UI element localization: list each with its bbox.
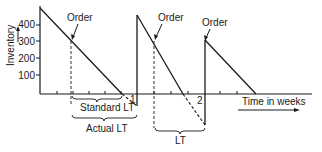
- depletion-line-3: [205, 40, 256, 94]
- order-arrowhead-icon: [71, 34, 75, 40]
- order-arrow-1: [73, 24, 78, 37]
- lt-brace: [155, 128, 205, 134]
- actual-lt-label: Actual LT: [86, 123, 128, 134]
- y-tick-label-400: 400: [18, 19, 35, 30]
- order-label-1: Order: [67, 12, 93, 23]
- y-tick-label-300: 300: [18, 36, 35, 47]
- standard-lt-label: Standard LT: [80, 102, 134, 113]
- x-tick-label-2: 2: [197, 95, 203, 106]
- depletion-line-2: [137, 15, 183, 94]
- lt-label: LT: [175, 135, 186, 146]
- y-tick-label-200: 200: [18, 53, 35, 64]
- order-arrow-2: [156, 24, 162, 37]
- y-tick-label-100: 100: [18, 70, 35, 81]
- actual-lt-brace: [72, 115, 137, 121]
- order-label-2: Order: [158, 12, 184, 23]
- y-axis-label: Inventory: [5, 25, 16, 66]
- time-arrowhead-icon: [294, 108, 300, 112]
- inventory-diagram: 400 300 200 100 Inventory 1 2 Order Orde…: [0, 0, 322, 152]
- x-axis-label: Time in weeks: [242, 96, 306, 107]
- order-label-3: Order: [202, 17, 228, 28]
